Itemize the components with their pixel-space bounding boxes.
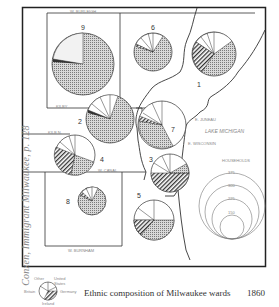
street-label-juneau: E. JUNEAU <box>195 117 216 122</box>
ward-8-pie <box>78 187 106 215</box>
svg-text:1: 1 <box>197 81 201 88</box>
svg-text:2: 2 <box>78 118 82 125</box>
households-300: 300 <box>228 183 235 188</box>
map-title: Ethnic composition of Milwaukee wards <box>84 288 230 298</box>
map-year: 1860 <box>247 288 265 298</box>
households-375: 375 <box>228 170 235 175</box>
street-label-burnham: W. BURNHAM <box>68 248 94 253</box>
legend-other: Other <box>34 276 44 281</box>
ward-3-pie <box>151 154 189 192</box>
street-label-kilby: KILBY <box>56 104 67 109</box>
legend-us: United States <box>54 276 72 286</box>
ward-9-pie <box>52 33 114 95</box>
households-title: HOUSEHOLDS <box>222 158 250 163</box>
street-label-burleigh: W. BURLEIGH <box>70 9 96 14</box>
svg-text:6: 6 <box>151 24 155 31</box>
ward-5-pie <box>134 200 174 240</box>
legend-ireland: Ireland <box>42 301 54 306</box>
lake-label: LAKE MICHIGAN <box>205 128 244 134</box>
households-150: 150 <box>228 210 235 215</box>
svg-text:4: 4 <box>100 156 104 163</box>
svg-text:8: 8 <box>66 198 70 205</box>
legend-britain: Britain <box>24 289 35 294</box>
legend-germany: Germany <box>60 289 76 294</box>
svg-text:9: 9 <box>81 24 85 31</box>
street-label-wisconsin: E. WISCONSIN <box>188 141 216 146</box>
ward-6-pie <box>134 33 172 71</box>
households-225: 225 <box>228 196 235 201</box>
svg-text:5: 5 <box>137 192 141 199</box>
ward-2-pie <box>86 95 134 143</box>
ward-4-pie <box>54 135 95 175</box>
street-label-canal: W. CANAL <box>98 168 117 173</box>
ward-7-pie <box>138 101 186 149</box>
ward-map: 9 6 1 2 7 4 3 8 5 <box>0 0 279 307</box>
svg-text:3: 3 <box>149 156 153 163</box>
ward-1-pie <box>192 32 236 76</box>
svg-text:7: 7 <box>171 126 175 133</box>
source-caption: Conzen, Immigrant Milwaukee, p. 128 <box>20 121 31 291</box>
street-label-kilbn: KILB N. <box>48 130 62 135</box>
